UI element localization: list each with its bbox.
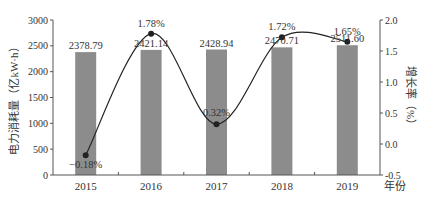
bar-value-label: 2378.79 [69,40,103,51]
y-left-tick-label: 0 [43,170,48,181]
bar-value-label: 2421.14 [134,38,169,49]
x-tick-label: 2016 [140,180,163,192]
growth-rate-label: 1.72% [268,21,295,32]
x-axis-title: 年份 [384,179,406,192]
y-left-tick-label: 1000 [28,118,48,129]
growth-rate-label: 1.78% [138,18,165,29]
bar [141,50,162,175]
bar [271,47,292,175]
x-tick-label: 2015 [75,180,98,192]
y-right-tick-label: -0.5 [385,170,401,181]
y-right-tick-label: 1.0 [385,77,398,88]
y-right-tick-label: 1.5 [385,46,398,57]
line-point [148,31,154,37]
y-axis-right-title: 增长率（%） [405,66,418,130]
combo-chart: 050010001500200025003000-0.50.00.51.01.5… [0,0,430,201]
bar-value-label: 2470.71 [265,35,299,46]
growth-rate-label: −0.18% [69,159,102,170]
y-right-tick-label: 2.0 [385,15,398,26]
bar-value-label: 2428.94 [199,38,234,49]
y-left-tick-label: 2500 [28,40,48,51]
y-axis-left-title: 电力消耗量（亿kW·h） [7,41,20,154]
line-point [83,152,89,158]
y-right-tick-label: 0.5 [385,108,398,119]
y-left-tick-label: 1500 [28,92,48,103]
growth-rate-label: 0.32% [203,107,230,118]
y-right-tick-label: 0.0 [385,139,398,150]
x-tick-label: 2018 [271,180,294,192]
x-tick-label: 2019 [336,180,359,192]
y-left-tick-label: 2000 [28,66,48,77]
y-left-tick-label: 500 [33,144,48,155]
line-point [214,121,220,127]
growth-rate-label: 1.65% [334,26,361,37]
y-left-tick-label: 3000 [28,15,48,26]
bar [337,45,358,175]
x-tick-label: 2017 [206,180,229,192]
